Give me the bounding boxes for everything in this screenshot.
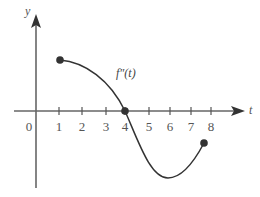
tick-label-7: 7 xyxy=(188,119,195,134)
y-axis-label: y xyxy=(24,4,31,18)
tick-label-1: 1 xyxy=(56,119,63,134)
t-axis-label: t xyxy=(249,103,253,117)
start-point-dot xyxy=(56,56,64,64)
end-point-dot xyxy=(200,139,208,147)
tick-label-3: 3 xyxy=(103,119,110,134)
zero-crossing-dot xyxy=(121,107,129,115)
tick-label-0: 0 xyxy=(26,119,33,134)
tick-label-8: 8 xyxy=(208,119,215,134)
tick-label-2: 2 xyxy=(79,119,86,134)
tick-label-5: 5 xyxy=(146,119,153,134)
tick-label-6: 6 xyxy=(167,119,174,134)
graph-canvas: y t 0 1 2 3 4 5 6 7 8 f″(t) xyxy=(0,0,260,197)
function-label: f″(t) xyxy=(116,66,136,80)
tick-label-4: 4 xyxy=(122,119,129,134)
t-axis-tick-labels: 0 1 2 3 4 5 6 7 8 xyxy=(26,119,215,134)
